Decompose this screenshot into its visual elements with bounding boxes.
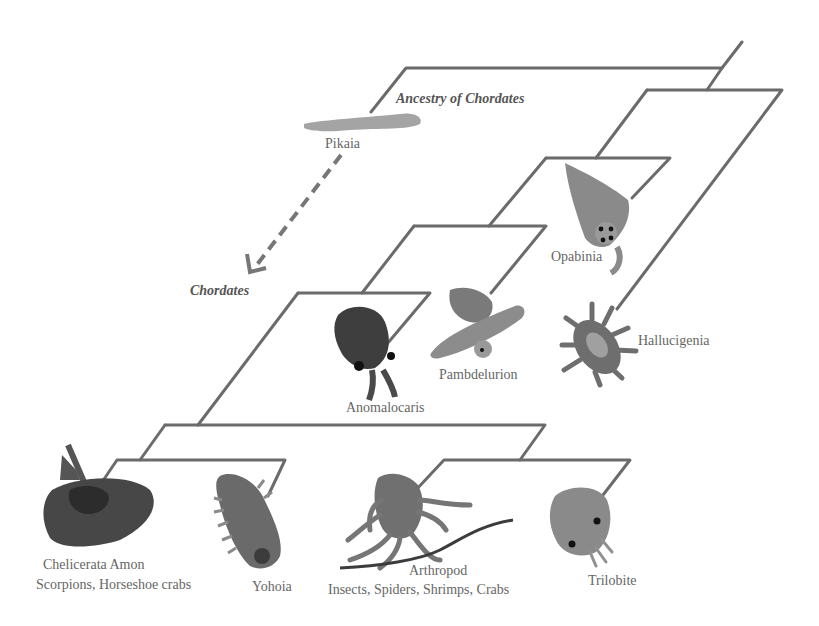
taxon-label-anomalocaris: Anomalocaris [346, 401, 425, 415]
branch-hallucigenia [617, 90, 782, 309]
taxon-subtitle-chelicerata: Scorpions, Horseshoe crabs [36, 578, 191, 592]
anomalocaris-image [334, 307, 395, 400]
hallucigenia-image [562, 304, 636, 385]
taxon-label-trilobite: Trilobite [588, 574, 637, 588]
clade-label-ancestry-of-chordates: Ancestry of Chordates [396, 92, 524, 106]
taxon-label-yohoia: Yohoia [252, 580, 292, 594]
branch-arthropod-trilobite [415, 460, 630, 495]
branch-node-3 [596, 90, 647, 158]
pikaia-image [304, 113, 421, 131]
branch-node-7 [140, 425, 165, 460]
branch-arthropod-group [165, 425, 545, 460]
dashed-arrow [247, 155, 341, 272]
taxon-label-pambdelurion: Pambdelurion [439, 368, 518, 382]
branch-pambdelurion [414, 226, 546, 293]
trilobite-image [550, 487, 612, 566]
phylogenetic-tree-diagram: Ancestry of Chordates Chordates Pikaia O… [0, 0, 819, 626]
branch-node-6 [198, 293, 298, 425]
branch-node-2 [707, 68, 722, 90]
taxon-label-chelicerata: Chelicerata Amon [43, 558, 144, 572]
taxon-label-hallucigenia: Hallucigenia [638, 334, 710, 348]
clade-label-chordates: Chordates [190, 284, 249, 298]
taxon-label-opabinia: Opabinia [551, 250, 602, 264]
taxon-label-pikaia: Pikaia [325, 137, 360, 151]
taxon-subtitle-arthropod: Insects, Spiders, Shrimps, Crabs [328, 583, 509, 597]
arthropod-image [340, 474, 513, 568]
branch-node-5 [362, 226, 414, 293]
pambdelurion-image [430, 288, 524, 359]
branch-node-4 [489, 158, 546, 226]
taxon-label-arthropod: Arthropod [409, 564, 467, 578]
